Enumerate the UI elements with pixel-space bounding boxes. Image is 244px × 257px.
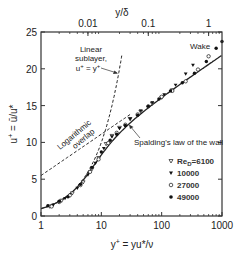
legend: ReD=6100100002700049000 xyxy=(169,157,215,202)
svg-text:sublayer,: sublayer, xyxy=(75,54,107,63)
y-axis-title: u+ = ū/u* xyxy=(7,104,19,143)
x-tick-label: 10 xyxy=(96,220,108,231)
x-axis-title: y+ = yu*/ν xyxy=(111,238,154,250)
svg-text:y+ = yu*/ν: y+ = yu*/ν xyxy=(111,238,154,250)
arrowhead-icon xyxy=(113,71,118,75)
legend-label: 10000 xyxy=(177,169,200,178)
legend-label: ReD=6100 xyxy=(177,157,215,167)
legend-item: 27000 xyxy=(169,181,200,190)
wake-annotation: Wake xyxy=(190,42,211,51)
y-tick-label: 15 xyxy=(26,101,38,112)
y-tick-label: 10 xyxy=(26,137,38,148)
chart-container: 110100100005101520250.010.11 y/δ y+ = yu… xyxy=(0,0,244,257)
svg-text:u+ = y+: u+ = y+ xyxy=(76,63,101,73)
x-tick-label: 100 xyxy=(153,220,170,231)
series-re-d-6100 xyxy=(48,89,174,209)
legend-label: 49000 xyxy=(177,193,200,202)
top-axis-title: y/δ xyxy=(115,7,129,18)
top-x-tick-label: 0.1 xyxy=(141,18,155,29)
legend-label: 27000 xyxy=(177,181,200,190)
top-x-tick-label: 1 xyxy=(206,18,212,29)
linear-sublayer-annotation: Linear sublayer, u+ = y+ xyxy=(75,45,118,74)
x-tick-label: 1000 xyxy=(211,220,234,231)
spalding-annotation: Spalding's law of the wall xyxy=(129,125,223,148)
legend-item: 49000 xyxy=(169,193,200,202)
x-tick-label: 1 xyxy=(38,220,44,231)
svg-text:Spalding's law of the wall: Spalding's law of the wall xyxy=(134,138,223,147)
arrowhead-icon xyxy=(129,125,134,130)
svg-text:u+ = ū/u*: u+ = ū/u* xyxy=(7,104,19,143)
y-tick-label: 5 xyxy=(31,174,37,185)
legend-item: ReD=6100 xyxy=(169,157,215,167)
law-of-the-wall-plot: 110100100005101520250.010.11 y/δ y+ = yu… xyxy=(0,0,244,257)
legend-item: 10000 xyxy=(169,169,200,178)
top-x-tick-label: 0.01 xyxy=(78,18,98,29)
y-tick-label: 0 xyxy=(31,211,37,222)
svg-text:Linear: Linear xyxy=(80,45,103,54)
log-overlap-annotation: Logarithmic overlap xyxy=(56,118,99,158)
y-tick-label: 20 xyxy=(26,64,38,75)
y-tick-label: 25 xyxy=(26,27,38,38)
